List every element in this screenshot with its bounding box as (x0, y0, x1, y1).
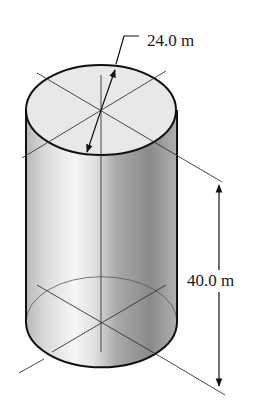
diameter-label: 24.0 m (147, 32, 194, 49)
cylinder-diagram (0, 0, 266, 414)
height-label: 40.0 m (186, 271, 235, 290)
